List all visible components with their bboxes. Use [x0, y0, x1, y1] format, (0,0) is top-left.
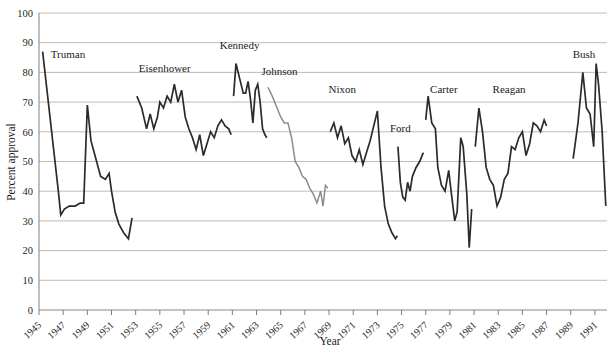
- chart-background: [0, 0, 615, 355]
- y-tick-label: 50: [23, 156, 34, 167]
- y-tick-label: 100: [17, 8, 33, 19]
- annotation-kennedy: Kennedy: [220, 39, 260, 51]
- y-tick-label: 30: [23, 216, 34, 227]
- annotation-truman: Truman: [51, 48, 86, 60]
- annotation-bush: Bush: [573, 48, 596, 60]
- chart-canvas: 1945194719491951195319551957195919611963…: [0, 0, 615, 355]
- presidential-approval-chart: 1945194719491951195319551957195919611963…: [0, 0, 615, 355]
- y-tick-label: 70: [23, 97, 34, 108]
- y-tick-label: 20: [23, 245, 34, 256]
- y-tick-label: 90: [23, 37, 34, 48]
- y-axis-title: Percent approval: [5, 123, 18, 201]
- y-tick-label: 80: [23, 67, 34, 78]
- y-tick-label: 10: [23, 275, 34, 286]
- y-tick-label: 60: [23, 127, 34, 138]
- y-tick-label: 40: [23, 186, 34, 197]
- annotation-eisenhower: Eisenhower: [139, 62, 191, 74]
- annotation-reagan: Reagan: [493, 83, 526, 95]
- x-axis-title: Year: [319, 335, 340, 347]
- annotation-johnson: Johnson: [261, 65, 298, 77]
- y-tick-label: 0: [28, 305, 33, 316]
- annotation-ford: Ford: [390, 122, 411, 134]
- annotation-nixon: Nixon: [329, 83, 357, 95]
- annotation-carter: Carter: [430, 83, 458, 95]
